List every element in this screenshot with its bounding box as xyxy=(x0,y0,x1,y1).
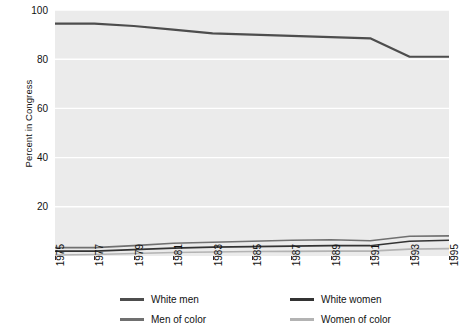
legend-swatch-icon xyxy=(120,298,144,301)
x-tick-label: 1989 xyxy=(331,244,342,284)
legend-item-men-of-color: Men of color xyxy=(120,312,206,326)
y-tick-label: 60 xyxy=(22,104,48,114)
legend-item-white-women: White women xyxy=(290,292,382,306)
chart-legend: White men White women Men of color Women… xyxy=(120,292,440,330)
legend-item-white-men: White men xyxy=(120,292,199,306)
series-lines xyxy=(55,24,449,255)
x-tick-label: 1993 xyxy=(410,244,421,284)
legend-label: White men xyxy=(151,294,199,305)
x-tick-label: 1983 xyxy=(213,244,224,284)
y-axis-ticks: 100 80 60 40 20 xyxy=(18,0,48,332)
legend-label: White women xyxy=(321,294,382,305)
plot-svg xyxy=(55,10,449,256)
legend-item-women-of-color: Women of color xyxy=(290,312,391,326)
x-tick-label: 1991 xyxy=(370,244,381,284)
x-tick-label: 1977 xyxy=(94,244,105,284)
y-tick-label: 80 xyxy=(22,55,48,65)
legend-swatch-icon xyxy=(290,318,314,321)
gridlines xyxy=(55,10,449,207)
plot-area xyxy=(55,10,449,256)
x-tick-label: 1995 xyxy=(449,244,460,284)
x-tick-label: 1985 xyxy=(252,244,263,284)
y-tick-label: 100 xyxy=(22,6,48,16)
x-tick-label: 1975 xyxy=(55,244,66,284)
x-tick-label: 1987 xyxy=(291,244,302,284)
legend-swatch-icon xyxy=(120,318,144,321)
legend-label: Women of color xyxy=(321,314,391,325)
y-tick-label: 40 xyxy=(22,153,48,163)
series-line xyxy=(55,24,449,57)
x-tick-label: 1981 xyxy=(173,244,184,284)
y-tick-label: 20 xyxy=(22,202,48,212)
legend-swatch-icon xyxy=(290,298,314,301)
legend-label: Men of color xyxy=(151,314,206,325)
x-tick-label: 1979 xyxy=(134,244,145,284)
